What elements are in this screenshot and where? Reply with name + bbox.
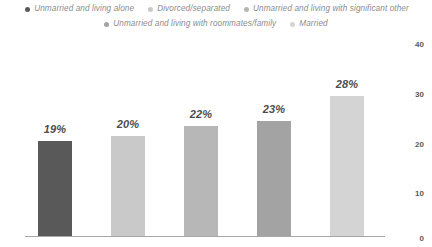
- legend-item-unmarried-living-alone[interactable]: Unmarried and living alone: [25, 3, 134, 15]
- bar-rect[interactable]: [38, 141, 72, 236]
- legend-item-label: Married: [299, 18, 327, 30]
- legend-item-married[interactable]: Married: [290, 18, 327, 30]
- bar-data-label: 23%: [248, 103, 300, 115]
- legend-item-divorced-separated[interactable]: Divorced/separated: [148, 3, 230, 15]
- y-axis-tick: 0: [394, 234, 424, 243]
- y-axis-tick: 20: [394, 140, 424, 149]
- legend-row-1: Unmarried and living alone Divorced/sepa…: [0, 3, 432, 15]
- bar-chart: Unmarried and living alone Divorced/sepa…: [0, 0, 432, 247]
- plot-area: 19% 20% 22% 23% 28%: [0, 36, 432, 247]
- y-axis-tick: 10: [394, 189, 424, 198]
- y-axis-tick: 40: [394, 40, 424, 49]
- legend-item-label: Unmarried and living with roommates/fami…: [113, 18, 276, 30]
- bar-data-label: 20%: [102, 118, 154, 130]
- legend-item-unmarried-roommates-family[interactable]: Unmarried and living with roommates/fami…: [104, 18, 276, 30]
- x-axis-line: [25, 236, 385, 237]
- legend-marker-icon: [25, 7, 30, 12]
- bar-data-label: 28%: [321, 78, 373, 90]
- bar-group: 23%: [257, 36, 291, 236]
- bar-group: 20%: [111, 36, 145, 236]
- legend-item-label: Unmarried and living alone: [34, 3, 134, 15]
- bar-rect[interactable]: [184, 126, 218, 236]
- bar-series: 19% 20% 22% 23% 28%: [25, 36, 385, 236]
- y-axis: 40 30 20 10 0: [387, 36, 432, 247]
- legend-row-2: Unmarried and living with roommates/fami…: [0, 18, 432, 30]
- y-axis-tick: 30: [394, 90, 424, 99]
- bar-rect[interactable]: [111, 136, 145, 236]
- chart-legend: Unmarried and living alone Divorced/sepa…: [0, 0, 432, 30]
- bar-rect[interactable]: [257, 121, 291, 236]
- legend-marker-icon: [148, 7, 153, 12]
- bar-group: 22%: [184, 36, 218, 236]
- bar-group: 19%: [38, 36, 72, 236]
- bar-data-label: 22%: [175, 108, 227, 120]
- bar-group: 28%: [330, 36, 364, 236]
- legend-marker-icon: [104, 22, 109, 27]
- legend-item-label: Unmarried and living with significant ot…: [253, 3, 409, 15]
- legend-marker-icon: [244, 7, 249, 12]
- bar-rect[interactable]: [330, 96, 364, 236]
- legend-item-label: Divorced/separated: [157, 3, 230, 15]
- legend-marker-icon: [290, 22, 295, 27]
- bar-data-label: 19%: [29, 123, 81, 135]
- legend-item-unmarried-significant-other[interactable]: Unmarried and living with significant ot…: [244, 3, 409, 15]
